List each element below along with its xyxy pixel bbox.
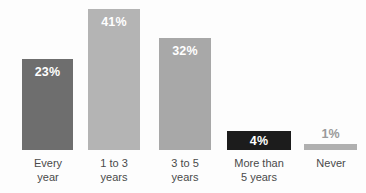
category-label-1-to-3-years: 1 to 3 years: [76, 156, 152, 184]
bar-never[interactable]: [304, 144, 357, 150]
bar-slot-1-to-3-years: 41%: [88, 0, 140, 150]
category-label-line: year: [10, 170, 86, 184]
category-label-line: 5 years: [215, 170, 303, 184]
plot-area: 23% 41% 32% 4% 1%: [0, 0, 366, 150]
category-label-line: Never: [303, 156, 359, 170]
category-label-more-than-5-years: More than 5 years: [215, 156, 303, 184]
category-label-line: years: [147, 170, 223, 184]
category-label-line: More than: [215, 156, 303, 170]
bar-value-1-to-3-years: 41%: [88, 16, 140, 29]
category-label-never: Never: [303, 156, 359, 170]
bar-slot-every-year: 23%: [22, 0, 73, 150]
bar-every-year[interactable]: 23%: [22, 59, 73, 150]
category-label-3-to-5-years: 3 to 5 years: [147, 156, 223, 184]
bar-1-to-3-years[interactable]: 41%: [88, 9, 140, 150]
bar-more-than-5-years[interactable]: 4%: [227, 131, 291, 150]
bar-chart: 23% 41% 32% 4% 1% E: [0, 0, 366, 193]
category-axis-labels: Every year 1 to 3 years 3 to 5 years Mor…: [0, 152, 366, 193]
bar-value-more-than-5-years: 4%: [227, 135, 291, 148]
bar-slot-more-than-5-years: 4%: [227, 0, 291, 150]
category-label-line: Every: [10, 156, 86, 170]
category-label-line: 3 to 5: [147, 156, 223, 170]
bar-slot-3-to-5-years: 32%: [159, 0, 211, 150]
bar-value-every-year: 23%: [22, 66, 73, 79]
bar-value-never: 1%: [304, 128, 357, 141]
bar-3-to-5-years[interactable]: 32%: [159, 38, 211, 150]
category-label-every-year: Every year: [10, 156, 86, 184]
bar-slot-never: 1%: [304, 0, 357, 150]
category-label-line: 1 to 3: [76, 156, 152, 170]
category-label-line: years: [76, 170, 152, 184]
bar-value-3-to-5-years: 32%: [159, 45, 211, 58]
